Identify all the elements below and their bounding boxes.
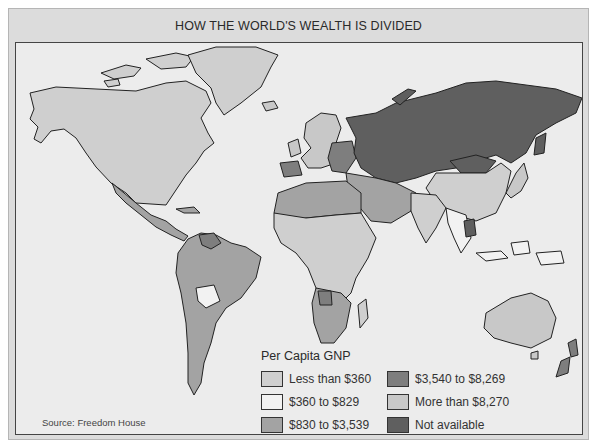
source-credit: Source: Freedom House [42, 417, 146, 428]
map-title: HOW THE WORLD'S WEALTH IS DIVIDED [9, 19, 588, 33]
legend-label: More than $8,270 [415, 395, 509, 409]
legend-item: More than $8,270 [387, 392, 509, 412]
legend-label: $3,540 to $8,269 [415, 372, 505, 386]
region-india [411, 193, 446, 243]
legend-title: Per Capita GNP [261, 349, 351, 363]
legend-item: Not available [387, 415, 484, 435]
legend-item: $360 to $829 [261, 392, 359, 412]
legend-swatch [387, 394, 409, 410]
legend-swatch [387, 371, 409, 387]
region-eastern-europe [328, 141, 356, 173]
legend-label: Not available [415, 418, 484, 432]
region-north-america [30, 81, 214, 205]
region-australia [484, 293, 556, 348]
legend-label: Less than $360 [289, 372, 371, 386]
legend-swatch [387, 417, 409, 433]
legend-swatch [261, 394, 283, 410]
legend-label: $360 to $829 [289, 395, 359, 409]
legend-swatch [261, 417, 283, 433]
region-south-america [176, 233, 261, 395]
legend-swatch [261, 371, 283, 387]
legend-item: $3,540 to $8,269 [387, 369, 505, 389]
map-panel: HOW THE WORLD'S WEALTH IS DIVIDED [8, 8, 589, 440]
legend-item: Less than $360 [261, 369, 371, 389]
legend: Per Capita GNP Less than $360 $360 to $8… [261, 349, 581, 439]
legend-item: $830 to $3,539 [261, 415, 369, 435]
legend-label: $830 to $3,539 [289, 418, 369, 432]
